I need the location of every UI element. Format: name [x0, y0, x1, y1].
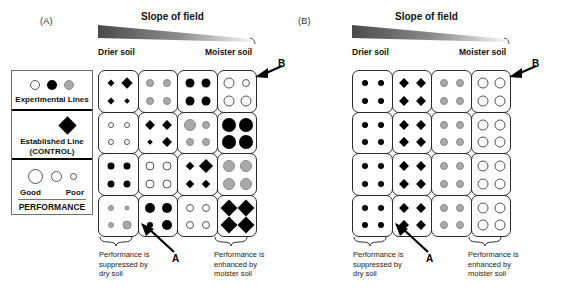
white-circle-icon: [494, 161, 505, 172]
grid-cell[interactable]: [177, 195, 218, 238]
grid-cell[interactable]: [352, 112, 393, 155]
black-circle-icon: [162, 203, 172, 213]
black-diamond-icon: [145, 120, 155, 130]
grid-cell[interactable]: [471, 153, 512, 196]
black-diamond-icon: [416, 203, 426, 213]
white-circle-icon: [478, 202, 489, 213]
grid-cell[interactable]: [352, 195, 393, 238]
grid-cell[interactable]: [138, 153, 179, 196]
white-circle-icon: [108, 139, 114, 145]
grid-cell[interactable]: [217, 70, 258, 113]
black-circle-icon: [362, 80, 368, 86]
grid-cell[interactable]: [177, 70, 218, 113]
white-circle-icon: [494, 178, 505, 189]
slope-title-a: Slope of field: [141, 11, 204, 22]
black-circle-icon: [378, 139, 384, 145]
gray-circle-icon: [440, 180, 448, 188]
gray-circle-icon: [108, 205, 114, 211]
grid-cell[interactable]: [352, 70, 393, 113]
white-circle-icon: [494, 78, 505, 89]
gray-circle-icon: [440, 221, 448, 229]
grid-cell[interactable]: [431, 112, 472, 155]
black-diamond-icon: [199, 159, 213, 173]
grid-cell[interactable]: [177, 153, 218, 196]
grid-cell[interactable]: [392, 153, 433, 196]
white-circle-icon: [186, 204, 194, 212]
legend-established-caption-line2: (CONTROL): [12, 147, 92, 157]
gray-circle-icon: [456, 121, 464, 129]
pointer-label-b-b: B: [532, 58, 539, 69]
grid-cell[interactable]: [217, 112, 258, 155]
pointer-arrow-b: [392, 222, 432, 254]
white-circle-icon: [478, 95, 489, 106]
grid-cell[interactable]: [471, 112, 512, 155]
black-circle-icon: [239, 118, 253, 132]
gray-circle-icon: [456, 180, 464, 188]
black-circle-icon: [378, 80, 384, 86]
slope-wedge-b: [352, 25, 510, 47]
white-circle-icon: [242, 79, 250, 87]
grid-cell[interactable]: [352, 153, 393, 196]
brace-right-a: [214, 237, 254, 246]
drier-soil-label-a: Drier soil: [98, 47, 135, 57]
note-enhanced-a: Performance is enhanced by moister soil: [214, 250, 280, 279]
white-circle-icon: [162, 179, 171, 188]
grid-cell[interactable]: [138, 70, 179, 113]
black-circle-icon: [362, 181, 368, 187]
white-circle-icon: [202, 221, 210, 229]
grid-cell[interactable]: [471, 195, 512, 238]
brace-right-b: [468, 237, 508, 246]
black-circle-icon: [362, 139, 368, 145]
black-diamond-icon: [399, 161, 409, 171]
legend-experimental-caption: Experimental Lines: [12, 95, 92, 105]
grid-cell[interactable]: [431, 195, 472, 238]
black-circle-icon: [107, 163, 114, 170]
grid-cell[interactable]: [98, 153, 139, 196]
grid-cell[interactable]: [392, 70, 433, 113]
grid-cell[interactable]: [392, 112, 433, 155]
grid-cell[interactable]: [217, 195, 258, 238]
grid-cell[interactable]: [217, 153, 258, 196]
white-circle-icon: [202, 204, 210, 212]
white-circle-icon: [124, 139, 130, 145]
black-diamond-icon: [416, 137, 426, 147]
pointer-arrow-a: [138, 222, 178, 254]
black-diamond-icon: [416, 120, 426, 130]
black-circle-icon: [107, 180, 114, 187]
white-circle-icon: [30, 80, 40, 90]
gray-circle-icon: [440, 204, 448, 212]
grid-cell[interactable]: [138, 112, 179, 155]
gray-circle-icon: [163, 79, 171, 87]
grid-cell[interactable]: [98, 112, 139, 155]
grid-cell[interactable]: [98, 195, 139, 238]
grid-cell[interactable]: [431, 153, 472, 196]
black-diamond-icon: [399, 78, 409, 88]
grid-cell[interactable]: [431, 70, 472, 113]
black-circle-icon: [362, 222, 368, 228]
black-circle-icon: [145, 203, 155, 213]
grid-cell[interactable]: [177, 112, 218, 155]
black-diamond-icon: [416, 78, 426, 88]
black-diamond-icon: [416, 96, 426, 106]
black-circle-icon: [124, 180, 131, 187]
performance-poor-circle-icon: [70, 173, 77, 180]
gray-circle-icon: [123, 221, 132, 230]
white-circle-icon: [478, 178, 489, 189]
gray-circle-icon: [456, 162, 464, 170]
grid-panel-a: [98, 70, 256, 236]
legend-box: Experimental Lines Established Line (CON…: [11, 70, 93, 215]
white-circle-icon: [494, 137, 505, 148]
white-circle-icon: [240, 95, 251, 106]
black-diamond-icon: [125, 98, 131, 104]
gray-circle-icon: [184, 119, 196, 131]
note-suppressed-a: Performance is suppressed by dry soil: [99, 250, 161, 279]
black-circle-icon: [362, 122, 368, 128]
black-diamond-icon: [237, 217, 254, 234]
black-diamond-icon: [162, 137, 172, 147]
grid-cell[interactable]: [471, 70, 512, 113]
gray-circle-icon: [146, 79, 154, 87]
white-circle-icon: [478, 119, 489, 130]
black-circle-icon: [378, 222, 384, 228]
black-circle-icon: [362, 205, 368, 211]
grid-cell[interactable]: [98, 70, 139, 113]
